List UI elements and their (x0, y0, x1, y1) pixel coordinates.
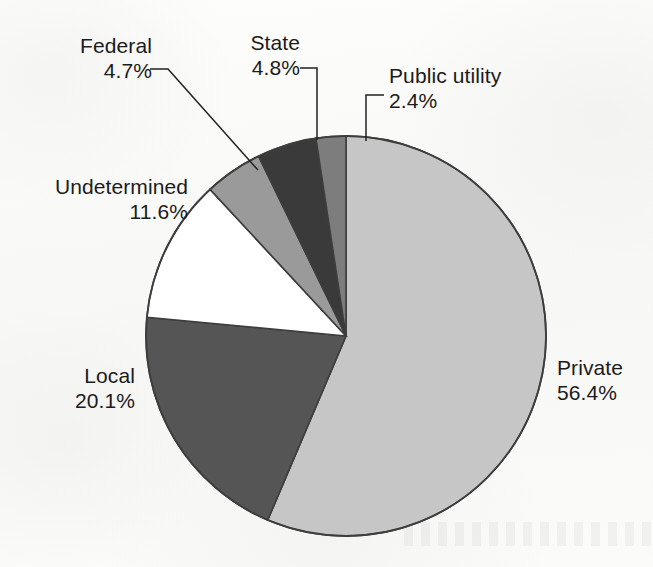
slice-label-local-value: 20.1% (0, 388, 135, 413)
pie-chart-figure: Federal 4.7% State 4.8% Public utility 2… (0, 0, 653, 567)
slice-label-state-value: 4.8% (160, 55, 300, 80)
slice-label-undetermined-name: Undetermined (0, 174, 188, 199)
slice-label-public-utility: Public utility 2.4% (389, 63, 569, 113)
slice-label-undetermined: Undetermined 11.6% (0, 174, 188, 224)
slice-label-local-name: Local (0, 363, 135, 388)
slice-label-state-name: State (160, 30, 300, 55)
pie-slices (146, 136, 546, 536)
slice-label-public-utility-name: Public utility (389, 63, 569, 88)
slice-label-public-utility-value: 2.4% (389, 88, 569, 113)
slice-label-state: State 4.8% (160, 30, 300, 80)
leader-line-public-utility (366, 95, 384, 141)
slice-label-federal-name: Federal (0, 33, 152, 58)
leader-line-state (300, 68, 317, 140)
slice-label-federal-value: 4.7% (0, 58, 152, 83)
slice-label-federal: Federal 4.7% (0, 33, 152, 83)
slice-label-private-name: Private (557, 355, 653, 380)
slice-label-local: Local 20.1% (0, 363, 135, 413)
slice-label-undetermined-value: 11.6% (0, 199, 188, 224)
leader-line-federal (150, 69, 258, 170)
slice-label-private: Private 56.4% (557, 355, 653, 405)
slice-label-private-value: 56.4% (557, 380, 653, 405)
